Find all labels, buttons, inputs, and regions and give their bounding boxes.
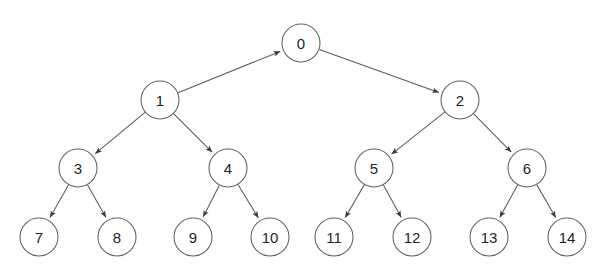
node-label-2: 2: [456, 92, 464, 109]
node-label-11: 11: [326, 229, 342, 246]
node-label-14: 14: [559, 229, 576, 246]
tree-node-6[interactable]: 6: [508, 149, 546, 187]
tree-node-1[interactable]: 1: [141, 81, 179, 119]
tree-node-4[interactable]: 4: [209, 149, 247, 187]
node-label-4: 4: [224, 160, 232, 177]
node-label-8: 8: [113, 229, 121, 246]
node-label-5: 5: [370, 160, 378, 177]
node-label-7: 7: [35, 229, 43, 246]
tree-node-10[interactable]: 10: [251, 218, 289, 256]
node-label-6: 6: [523, 160, 531, 177]
node-label-10: 10: [262, 229, 279, 246]
tree-node-3[interactable]: 3: [59, 149, 97, 187]
binary-tree-diagram: 01234567891011121314: [0, 0, 615, 272]
node-label-3: 3: [74, 160, 82, 177]
tree-node-9[interactable]: 9: [174, 218, 212, 256]
tree-node-2[interactable]: 2: [441, 81, 479, 119]
tree-node-13[interactable]: 13: [470, 218, 508, 256]
tree-node-5[interactable]: 5: [355, 149, 393, 187]
tree-node-14[interactable]: 14: [548, 218, 586, 256]
tree-node-0[interactable]: 0: [282, 24, 320, 62]
node-label-13: 13: [481, 229, 498, 246]
node-label-0: 0: [297, 35, 305, 52]
node-label-1: 1: [156, 92, 164, 109]
node-label-9: 9: [189, 229, 197, 246]
tree-node-11[interactable]: 11: [315, 218, 353, 256]
tree-node-12[interactable]: 12: [393, 218, 431, 256]
tree-node-7[interactable]: 7: [20, 218, 58, 256]
node-label-12: 12: [404, 229, 421, 246]
tree-node-8[interactable]: 8: [98, 218, 136, 256]
